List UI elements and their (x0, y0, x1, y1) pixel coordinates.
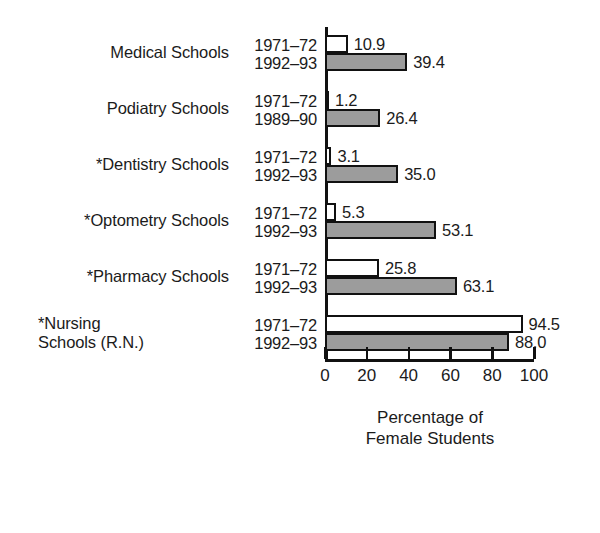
x-tick-label: 40 (399, 366, 418, 386)
x-tick-label: 60 (441, 366, 460, 386)
category-label: *Nursing Schools (R.N.) (38, 314, 144, 352)
x-tick-label: 100 (520, 366, 548, 386)
bar-value-label: 10.9 (354, 35, 385, 53)
bar-value-label: 88.0 (515, 333, 546, 351)
x-tick-label: 80 (483, 366, 502, 386)
category-label: *Optometry Schools (84, 211, 229, 230)
bar-value-label: 26.4 (386, 109, 417, 127)
bar-value-label: 1.2 (335, 91, 357, 109)
bar-value-label: 25.8 (385, 259, 416, 277)
x-tick (533, 347, 536, 359)
year-label: 1971–72 (229, 204, 317, 222)
x-tick (449, 347, 452, 359)
bar-earlier-year (325, 315, 523, 333)
bar-value-label: 5.3 (342, 203, 364, 221)
bar-earlier-year (325, 259, 379, 277)
bar-later-year (325, 221, 436, 239)
x-tick (324, 347, 327, 359)
year-label: 1992–93 (229, 166, 317, 184)
year-label: 1971–72 (229, 148, 317, 166)
year-label: 1989–90 (229, 110, 317, 128)
category-label: *Pharmacy Schools (87, 267, 229, 286)
year-label: 1971–72 (229, 36, 317, 54)
bar-earlier-year (325, 147, 331, 165)
year-label: 1992–93 (229, 54, 317, 72)
year-label: 1971–72 (229, 316, 317, 334)
bar-value-label: 39.4 (413, 53, 444, 71)
bar-value-label: 63.1 (463, 277, 494, 295)
year-label: 1992–93 (229, 278, 317, 296)
bar-earlier-year (325, 35, 348, 53)
x-tick (491, 347, 494, 359)
bar-earlier-year (325, 203, 336, 221)
x-axis-title: Percentage of Female Students (300, 407, 560, 449)
category-label: Podiatry Schools (107, 99, 229, 118)
bar-later-year (325, 277, 457, 295)
year-label: 1971–72 (229, 92, 317, 110)
bar-value-label: 3.1 (337, 147, 359, 165)
chart-figure: Medical SchoolsPodiatry Schools*Dentistr… (0, 0, 600, 533)
bar-later-year (325, 53, 407, 71)
x-tick-label: 20 (357, 366, 376, 386)
plot-area: 10.939.41.226.43.135.05.353.125.863.194.… (325, 27, 534, 412)
category-label: *Dentistry Schools (96, 155, 229, 174)
year-label: 1992–93 (229, 334, 317, 352)
bar-later-year (325, 165, 398, 183)
x-tick (366, 347, 369, 359)
bar-later-year (325, 109, 380, 127)
category-label: Medical Schools (110, 43, 229, 62)
bar-later-year (325, 333, 509, 351)
bar-earlier-year (325, 91, 329, 109)
bar-value-label: 94.5 (529, 315, 560, 333)
x-tick (408, 347, 411, 359)
year-label: 1971–72 (229, 260, 317, 278)
year-label: 1992–93 (229, 222, 317, 240)
y-axis-line (325, 27, 328, 359)
x-tick-label: 0 (320, 366, 329, 386)
bar-value-label: 35.0 (404, 165, 435, 183)
bar-value-label: 53.1 (442, 221, 473, 239)
x-axis-line (325, 359, 534, 362)
